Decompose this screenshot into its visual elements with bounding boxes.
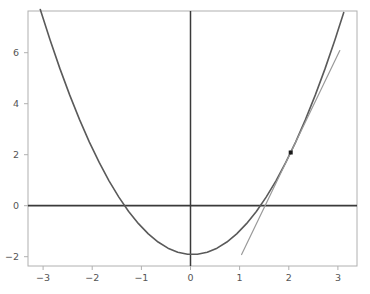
x-tick-label: −1 [134,272,148,283]
tangency-point-marker [289,151,293,155]
y-tick-label: 4 [13,98,19,109]
y-tick-label: 2 [13,149,19,160]
x-tick-marks [43,266,338,270]
x-tick-label: 1 [237,272,243,283]
chart-canvas: −3 −2 −1 0 1 2 3 −2 0 2 4 6 [0,0,370,294]
y-tick-label: 0 [13,200,19,211]
x-tick-label: 0 [187,272,193,283]
x-tick-label: 2 [286,272,292,283]
x-tick-label: 3 [335,272,341,283]
y-tick-label: 6 [13,47,19,58]
chart-figure: −3 −2 −1 0 1 2 3 −2 0 2 4 6 [0,0,370,294]
x-tick-label: −2 [85,272,99,283]
y-tick-label: −2 [5,251,19,262]
y-tick-marks [24,53,28,257]
x-tick-labels: −3 −2 −1 0 1 2 3 [36,272,341,283]
y-tick-labels: −2 0 2 4 6 [5,47,19,262]
plot-background [28,11,357,266]
x-tick-label: −3 [36,272,50,283]
